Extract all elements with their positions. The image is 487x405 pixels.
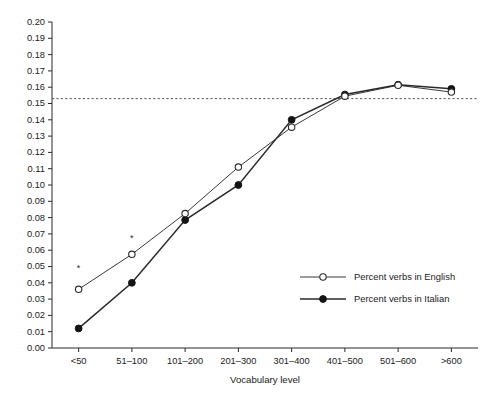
y-tick-label: 0.15: [27, 98, 45, 108]
data-point-english: [129, 251, 135, 257]
y-tick-label: 0.07: [27, 229, 45, 239]
y-tick-label: 0.17: [27, 66, 45, 76]
x-tick-label: 51–100: [116, 356, 147, 366]
data-point-italian: [128, 279, 135, 286]
legend-label: Percent verbs in Italian: [354, 293, 449, 304]
y-tick-label: 0.13: [27, 131, 45, 141]
y-tick-label: 0.00: [27, 343, 45, 353]
significance-asterisk: *: [77, 263, 81, 273]
y-tick-label: 0.16: [27, 82, 45, 92]
y-tick-label: 0.14: [27, 115, 45, 125]
series-line-english: [79, 85, 452, 289]
data-point-english: [235, 164, 241, 170]
chart-legend: Percent verbs in EnglishPercent verbs in…: [300, 271, 455, 304]
y-tick-label: 0.20: [27, 17, 45, 27]
y-tick-label: 0.11: [28, 164, 45, 174]
y-tick-label: 0.18: [27, 50, 45, 60]
significance-markers: **: [77, 233, 134, 272]
line-chart: 0.000.010.020.030.040.050.060.070.080.09…: [0, 0, 487, 405]
data-point-italian: [75, 325, 82, 332]
data-point-italian: [235, 182, 242, 189]
data-point-english: [182, 210, 188, 216]
y-tick-label: 0.02: [27, 310, 45, 320]
x-tick-label: 101–200: [167, 356, 203, 366]
data-point-english: [75, 286, 81, 292]
y-axis-ticks: 0.000.010.020.030.040.050.060.070.080.09…: [27, 17, 52, 353]
figure-container: 0.000.010.020.030.040.050.060.070.080.09…: [0, 0, 487, 405]
y-tick-label: 0.04: [27, 278, 45, 288]
x-axis-title: Vocabulary level: [230, 374, 300, 385]
y-tick-label: 0.09: [27, 196, 45, 206]
y-tick-label: 0.03: [27, 294, 45, 304]
y-tick-label: 0.19: [27, 33, 45, 43]
data-point-english: [342, 93, 348, 99]
y-tick-label: 0.06: [27, 245, 45, 255]
x-tick-label: <50: [71, 356, 87, 366]
y-tick-label: 0.12: [27, 147, 45, 157]
legend-swatch-marker: [320, 274, 326, 280]
data-point-english: [288, 124, 294, 130]
legend-label: Percent verbs in English: [354, 271, 455, 282]
series-line-italian: [79, 85, 452, 329]
data-point-english: [395, 82, 401, 88]
y-tick-label: 0.01: [27, 327, 45, 337]
x-tick-label: 401–500: [327, 356, 363, 366]
data-point-english: [448, 89, 454, 95]
cut-off-title: [0, 0, 487, 2]
x-tick-label: 301–400: [274, 356, 310, 366]
legend-item: Percent verbs in English: [300, 271, 455, 282]
legend-item: Percent verbs in Italian: [300, 293, 449, 304]
legend-swatch-marker: [320, 296, 327, 303]
significance-asterisk: *: [130, 233, 134, 243]
y-tick-label: 0.10: [27, 180, 45, 190]
x-tick-label: 201–300: [220, 356, 256, 366]
x-axis-ticks: <5051–100101–200201–300301–400401–500501…: [71, 348, 462, 366]
x-tick-label: 501–600: [380, 356, 416, 366]
y-tick-label: 0.05: [27, 261, 45, 271]
data-point-italian: [288, 116, 295, 123]
data-point-italian: [182, 217, 189, 224]
y-tick-label: 0.08: [27, 213, 45, 223]
x-tick-label: >600: [441, 356, 462, 366]
series-points-english: [75, 82, 454, 292]
